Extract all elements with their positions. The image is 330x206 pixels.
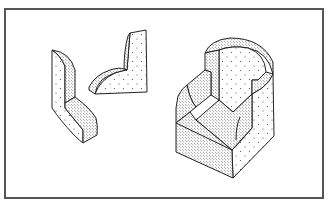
figure-canvas <box>0 0 330 206</box>
curved-l-bracket <box>89 30 147 94</box>
figure-illustration <box>0 0 330 206</box>
armchair-block <box>176 38 274 178</box>
l-shaped-block <box>52 50 97 143</box>
